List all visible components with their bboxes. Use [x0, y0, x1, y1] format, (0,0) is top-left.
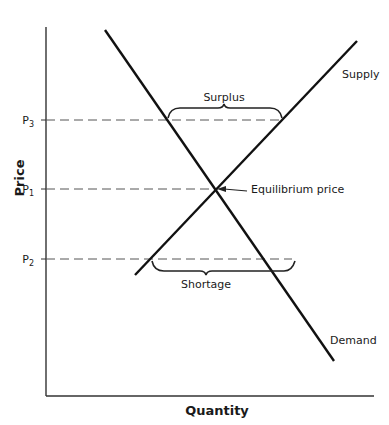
demand-label: Demand: [330, 334, 377, 347]
equilibrium-label: Equilibrium price: [251, 183, 344, 196]
supply-label: Supply: [342, 68, 380, 81]
surplus-brace: [168, 104, 282, 118]
surplus-label: Surplus: [203, 91, 244, 104]
svg-text:P1: P1: [22, 183, 34, 198]
shortage-label: Shortage: [181, 278, 231, 291]
svg-text:P3: P3: [22, 114, 34, 129]
svg-text:P2: P2: [22, 253, 34, 268]
supply-curve: [135, 41, 357, 275]
price-label-p3: P3: [22, 114, 34, 129]
supply-demand-diagram: Price Quantity P3 P1 P2 Supply Demand Su…: [0, 0, 389, 425]
x-axis-label: Quantity: [185, 403, 249, 418]
equilibrium-arrow-line: [224, 189, 247, 191]
price-label-p2: P2: [22, 253, 34, 268]
price-label-p1: P1: [22, 183, 34, 198]
